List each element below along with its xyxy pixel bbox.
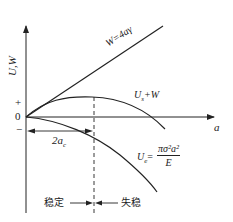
critical-length-label: 2ac (52, 135, 66, 149)
energy-diagram: U,W a + 0 − W=4aγ Us+W Ue= πσ²a² E 2ac 稳… (0, 0, 233, 222)
sum-curve-label: Us+W (134, 90, 159, 103)
elastic-curve-label: Ue= (137, 152, 153, 165)
tick-minus: − (16, 124, 22, 135)
y-axis-label: U,W (7, 56, 18, 76)
tick-plus: + (15, 97, 21, 108)
stable-region-label: 稳定 (44, 198, 64, 208)
elastic-formula-fraction: πσ²a² E (157, 143, 180, 168)
x-axis-label: a (214, 122, 220, 133)
tick-zero: 0 (15, 111, 21, 122)
unstable-region-label: 失稳 (121, 198, 141, 208)
